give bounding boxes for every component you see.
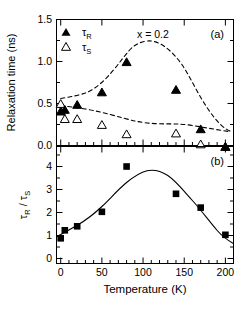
panel-b-frame <box>57 147 234 264</box>
panel-a: 0.0 0.5 1.0 1.5 <box>5 13 234 151</box>
legend-filled-triangle-icon <box>62 28 71 36</box>
panel-b-y-minor-ticks <box>57 155 234 247</box>
panel-b-ytick-4: 4 <box>46 160 52 172</box>
panel-b-fit-curve <box>57 170 234 243</box>
legend-tauS-label: τS <box>82 41 91 56</box>
panel-a-y-minor-ticks <box>57 41 234 125</box>
panel-b-ytick-1: 1 <box>46 229 52 241</box>
panel-a-tauS-guide-curve <box>61 106 231 132</box>
legend-open-triangle-icon <box>62 43 71 51</box>
xtick-4: 200 <box>217 266 235 278</box>
panel-b-ylabel: τR / τS <box>17 191 32 219</box>
panel-a-ytick-2: 1.0 <box>37 55 52 67</box>
x-axis: 0 50 100 150 200 Temperature (K) <box>58 266 235 295</box>
panel-a-ylabel: Relaxation time (ns) <box>5 34 17 132</box>
composition-annotation: x = 0.2 <box>137 28 169 40</box>
legend-tauR-label: τR <box>82 26 92 41</box>
figure-container: 0.0 0.5 1.0 1.5 <box>0 0 246 309</box>
panel-b-ytick-2: 2 <box>46 206 52 218</box>
x-axis-label: Temperature (K) <box>103 283 186 295</box>
panel-a-ytick-0: 0.0 <box>37 139 52 151</box>
panel-b-ytick-0: 0 <box>46 252 52 264</box>
panel-a-tag: (a) <box>211 28 224 40</box>
xtick-1: 50 <box>96 266 108 278</box>
panel-a-legend: τR τS <box>62 26 93 56</box>
xtick-3: 150 <box>175 266 193 278</box>
panel-b-tag: (b) <box>211 155 224 167</box>
xtick-2: 100 <box>134 266 152 278</box>
relaxation-time-figure: 0.0 0.5 1.0 1.5 <box>0 0 246 309</box>
panel-b: 0 1 2 3 4 <box>17 147 234 265</box>
panel-a-tauR-points <box>56 58 230 151</box>
panel-a-ytick-1: 0.5 <box>37 97 52 109</box>
panel-b-ratio-points <box>57 163 228 241</box>
panel-a-ytick-3: 1.5 <box>37 13 52 25</box>
xtick-0: 0 <box>58 266 64 278</box>
panel-b-ytick-3: 3 <box>46 183 52 195</box>
panel-b-y-major-ticks <box>57 167 234 259</box>
